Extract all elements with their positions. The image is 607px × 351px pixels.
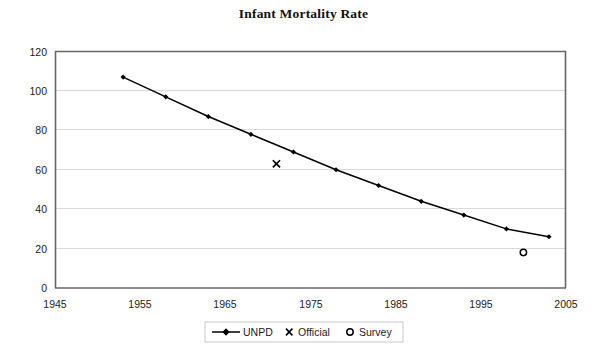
data-point-marker-circle bbox=[520, 249, 526, 255]
y-tick-label-40: 40 bbox=[35, 203, 47, 215]
x-tick-label-1945: 1945 bbox=[43, 298, 67, 310]
y-tick-label-120: 120 bbox=[29, 46, 47, 58]
data-point-marker-diamond bbox=[333, 167, 338, 172]
legend-label-official: Official bbox=[298, 326, 330, 338]
chart-container: Infant Mortality Rate 120 100 80 60 40 2… bbox=[0, 0, 607, 351]
x-axis-labels: 1945 1955 1965 1975 1985 1995 2005 bbox=[43, 298, 578, 310]
x-tick-label-1955: 1955 bbox=[128, 298, 152, 310]
x-tick-label-1985: 1985 bbox=[384, 298, 408, 310]
x-tick-label-1965: 1965 bbox=[213, 298, 237, 310]
series-survey bbox=[520, 249, 526, 255]
series-layer bbox=[121, 75, 552, 256]
x-tick-label-1975: 1975 bbox=[299, 298, 323, 310]
data-point-marker-diamond bbox=[376, 183, 381, 188]
series-line-unpd bbox=[123, 77, 549, 237]
data-point-marker-diamond bbox=[504, 226, 509, 231]
data-point-marker-x bbox=[273, 160, 280, 167]
chart-plot: 120 100 80 60 40 20 0 1945 1955 1965 197… bbox=[0, 0, 607, 351]
series-official bbox=[273, 160, 280, 167]
data-point-marker-diamond bbox=[291, 149, 296, 154]
x-tick-label-2005: 2005 bbox=[554, 298, 578, 310]
data-point-marker-diamond bbox=[163, 94, 168, 99]
data-point-marker-diamond bbox=[206, 114, 211, 119]
data-point-marker-diamond bbox=[121, 75, 126, 80]
legend-label-survey: Survey bbox=[359, 326, 392, 338]
data-point-marker-diamond bbox=[546, 234, 551, 239]
chart-legend: UNPD Official Survey bbox=[205, 322, 403, 342]
data-point-marker-diamond bbox=[461, 212, 466, 217]
y-axis-labels: 120 100 80 60 40 20 0 bbox=[29, 46, 47, 295]
legend-label-unpd: UNPD bbox=[243, 326, 273, 338]
data-point-marker-diamond bbox=[419, 199, 424, 204]
series-unpd bbox=[121, 75, 552, 240]
y-tick-label-80: 80 bbox=[35, 124, 47, 136]
y-tick-label-20: 20 bbox=[35, 243, 47, 255]
x-tick-label-1995: 1995 bbox=[469, 298, 493, 310]
data-point-marker-diamond bbox=[248, 132, 253, 137]
y-tick-label-100: 100 bbox=[29, 85, 47, 97]
y-tick-label-0: 0 bbox=[41, 282, 47, 294]
y-tick-label-60: 60 bbox=[35, 164, 47, 176]
